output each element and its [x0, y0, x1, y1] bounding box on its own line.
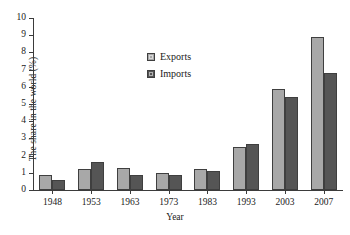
bar-imports-1953[interactable] [91, 162, 104, 190]
bar-exports-1983[interactable] [194, 169, 207, 190]
bar-imports-1948[interactable] [52, 180, 65, 190]
y-tick: 5 [29, 104, 33, 105]
y-tick: 4 [29, 121, 33, 122]
bar-exports-1953[interactable] [78, 169, 91, 190]
bar-chart: The share in the world (%) 012345678910 … [0, 0, 350, 235]
y-tick-label: 8 [21, 45, 26, 58]
y-tick: 9 [29, 35, 33, 36]
y-tick-label: 4 [21, 114, 26, 127]
bar-imports-1963[interactable] [130, 175, 143, 190]
bar-imports-2003[interactable] [285, 97, 298, 190]
legend-item-imports[interactable]: Imports [147, 65, 191, 82]
bar-exports-1963[interactable] [117, 168, 130, 190]
y-axis-line [33, 18, 34, 190]
bar-imports-1983[interactable] [207, 171, 220, 190]
bar-exports-1993[interactable] [233, 147, 246, 190]
y-tick: 8 [29, 52, 33, 53]
plot-area: 012345678910 194819531963197319831993200… [33, 18, 343, 190]
x-tick [91, 190, 92, 194]
bar-exports-2003[interactable] [272, 89, 285, 190]
y-tick: 1 [29, 173, 33, 174]
bar-imports-1993[interactable] [246, 144, 259, 190]
x-tick [169, 190, 170, 194]
y-tick-label: 3 [21, 131, 26, 144]
legend: ExportsImports [147, 48, 191, 82]
legend-item-exports[interactable]: Exports [147, 48, 191, 65]
bar-exports-2007[interactable] [311, 37, 324, 190]
y-tick-label: 6 [21, 80, 26, 93]
bar-exports-1948[interactable] [39, 175, 52, 190]
y-tick: 3 [29, 138, 33, 139]
x-tick-label-2007: 2007 [301, 196, 347, 209]
y-tick-label: 1 [21, 166, 26, 179]
legend-swatch-icon [147, 70, 155, 78]
x-tick [324, 190, 325, 194]
x-tick [52, 190, 53, 194]
x-axis-title: Year [0, 212, 350, 222]
legend-label: Exports [160, 50, 191, 63]
bar-imports-1973[interactable] [169, 175, 182, 190]
y-tick: 2 [29, 156, 33, 157]
y-tick-label: 9 [21, 28, 26, 41]
y-tick: 7 [29, 70, 33, 71]
x-tick [246, 190, 247, 194]
y-tick-label: 2 [21, 149, 26, 162]
x-axis-line [33, 190, 343, 191]
legend-label: Imports [160, 67, 191, 80]
y-tick-label: 10 [17, 11, 27, 24]
bar-exports-1973[interactable] [156, 173, 169, 190]
x-tick [207, 190, 208, 194]
legend-swatch-icon [147, 53, 155, 61]
x-tick [285, 190, 286, 194]
x-tick [130, 190, 131, 194]
y-tick-label: 5 [21, 97, 26, 110]
y-tick: 6 [29, 87, 33, 88]
bar-imports-2007[interactable] [324, 73, 337, 190]
y-tick-label: 0 [21, 183, 26, 196]
y-tick-label: 7 [21, 63, 26, 76]
y-tick: 0 [29, 190, 33, 191]
y-tick: 10 [29, 18, 33, 19]
